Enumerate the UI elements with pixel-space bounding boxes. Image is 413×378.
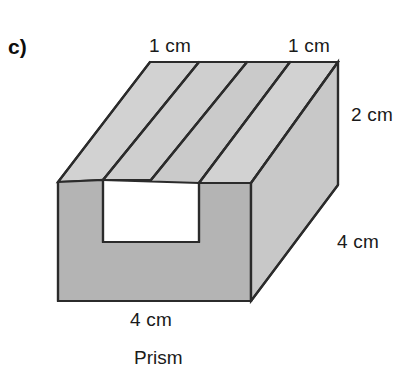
figure-caption: Prism — [134, 348, 183, 367]
dimension-label-height: 2 cm — [351, 105, 393, 124]
part-label-c: c) — [8, 36, 27, 57]
front-face — [58, 180, 251, 301]
dimension-label-depth: 4 cm — [337, 232, 379, 251]
dimension-label-top-left: 1 cm — [149, 36, 191, 55]
dimension-label-top-right: 1 cm — [288, 36, 330, 55]
prism-figure: c) 1 cm 1 cm 2 cm 4 cm 4 cm Prism — [0, 0, 413, 378]
prism-drawing — [0, 0, 413, 378]
dimension-label-width: 4 cm — [130, 310, 172, 329]
